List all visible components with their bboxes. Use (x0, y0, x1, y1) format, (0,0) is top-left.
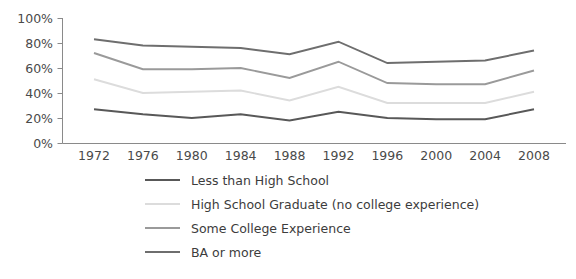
x-tick-label: 2008 (518, 148, 550, 163)
y-tick-label: 40% (25, 86, 53, 101)
x-tick-label: 1992 (323, 148, 355, 163)
legend-label: Less than High School (191, 173, 329, 188)
x-tick-label: 2000 (420, 148, 452, 163)
y-tick-label: 100% (17, 11, 53, 26)
x-tick-label: 1996 (371, 148, 403, 163)
series-line (94, 79, 534, 103)
x-tick-label: 1972 (78, 148, 110, 163)
legend-swatch-icon (145, 203, 180, 205)
x-tick-labels: 1972197619801984198819921996200020042008 (78, 148, 550, 163)
chart-legend: Less than High SchoolHigh School Graduat… (0, 168, 576, 279)
legend-swatch-icon (145, 179, 180, 181)
x-tick-label: 1988 (274, 148, 306, 163)
x-tick-label: 2004 (469, 148, 501, 163)
y-tick-labels: 0%20%40%60%80%100% (17, 11, 53, 151)
series-line (94, 109, 534, 120)
series-line (94, 53, 534, 84)
x-axis: 1972197619801984198819921996200020042008 (63, 144, 567, 164)
legend-label: High School Graduate (no college experie… (191, 197, 479, 212)
legend-item[interactable]: BA or more (0, 240, 576, 264)
y-tick-label: 80% (25, 36, 53, 51)
y-tick-label: 60% (25, 61, 53, 76)
x-tick-label: 1976 (127, 148, 159, 163)
legend-label: Some College Experience (191, 221, 351, 236)
legend-label: BA or more (191, 245, 261, 260)
y-tick-label: 0% (33, 136, 53, 151)
x-tick-label: 1980 (176, 148, 208, 163)
legend-item[interactable]: Less than High School (0, 168, 576, 192)
plot-area: 0%20%40%60%80%100% 197219761980198419881… (0, 0, 576, 170)
y-axis: 0%20%40%60%80%100% (17, 11, 62, 151)
legend-swatch-icon (145, 227, 180, 229)
series-line (94, 39, 534, 63)
legend-item[interactable]: Some College Experience (0, 216, 576, 240)
legend-item[interactable]: High School Graduate (no college experie… (0, 192, 576, 216)
line-chart: 0%20%40%60%80%100% 197219761980198419881… (0, 0, 576, 279)
y-tick-marks (58, 19, 63, 144)
legend-swatch-icon (145, 251, 180, 253)
series-lines (94, 39, 534, 120)
y-tick-label: 20% (25, 111, 53, 126)
x-tick-label: 1984 (225, 148, 257, 163)
